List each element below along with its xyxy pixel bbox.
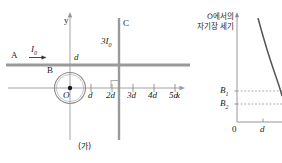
chart-y-axis-title: O에서의 자기장 세기 bbox=[196, 12, 234, 31]
chart-y-axis bbox=[235, 12, 239, 122]
x-tick-label-5d: 5d bbox=[169, 91, 178, 100]
chart-curve bbox=[258, 18, 282, 96]
chart-y-axis-title-line2: 자기장 세기 bbox=[196, 22, 234, 32]
figure-caption: (가) bbox=[78, 140, 91, 151]
chart-panel: O에서의 자기장 세기 B1 B2 0 d bbox=[196, 0, 282, 163]
b2-subscript: 2 bbox=[226, 104, 229, 110]
diagram-svg bbox=[0, 0, 196, 163]
chart-y-tick-label-b2: B2 bbox=[220, 99, 229, 110]
point-o-label: O bbox=[63, 91, 70, 100]
x-tick-label-3d: 3d bbox=[127, 91, 136, 100]
wire-a-height-label: d bbox=[74, 53, 79, 62]
x-tick-label-d: d bbox=[88, 91, 93, 100]
wire-a-label: A bbox=[11, 51, 18, 60]
y-axis-label: y bbox=[64, 16, 69, 25]
chart-y-axis-title-line1: O에서의 bbox=[196, 12, 234, 22]
chart-x-tick-label-d: d bbox=[260, 125, 265, 134]
y-axis bbox=[68, 12, 73, 140]
current-arrow-a bbox=[29, 55, 47, 59]
diagram-panel: y x A I0 C 3I0 d B O d 2d 3d 4d 5d (가) bbox=[0, 0, 196, 163]
x-axis bbox=[8, 86, 185, 91]
wire-c-current-label: 3I0 bbox=[101, 37, 112, 48]
b1-subscript: 1 bbox=[226, 91, 229, 97]
current-3i-subscript: 0 bbox=[109, 42, 112, 48]
figure-root: y x A I0 C 3I0 d B O d 2d 3d 4d 5d (가) bbox=[0, 0, 282, 163]
chart-y-tick-label-b1: B1 bbox=[220, 86, 229, 97]
current-3i-symbol: 3I bbox=[101, 36, 109, 46]
wire-a-current-label: I0 bbox=[31, 45, 37, 56]
loop-b-label: B bbox=[47, 66, 53, 75]
x-tick-label-4d: 4d bbox=[148, 91, 157, 100]
current-i-subscript: 0 bbox=[34, 50, 37, 56]
chart-origin-label: 0 bbox=[232, 125, 237, 134]
x-tick-label-2d: 2d bbox=[106, 91, 115, 100]
wire-c-label: C bbox=[123, 19, 129, 28]
